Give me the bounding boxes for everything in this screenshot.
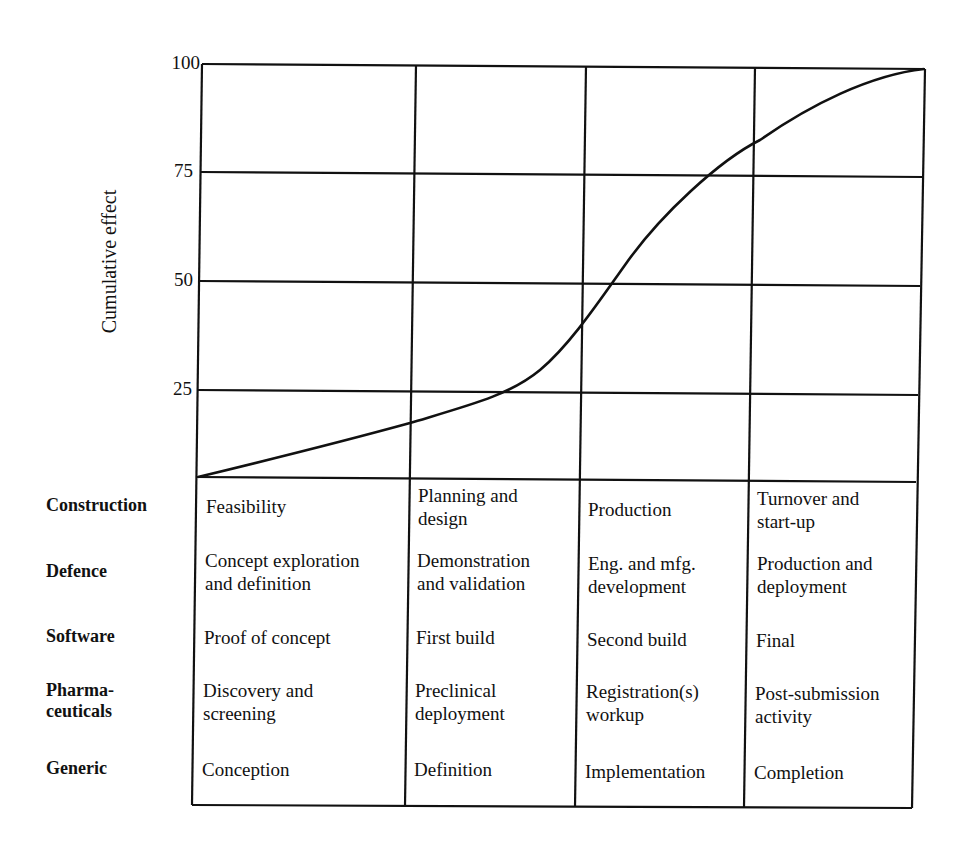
cell-software-phase4: Final	[756, 629, 795, 652]
cell-defence-phase3: Eng. and mfg.development	[588, 552, 696, 598]
cell-defence-phase1: Concept explorationand definition	[205, 549, 360, 595]
cell-pharma-phase3: Registration(s)workup	[586, 680, 699, 726]
cell-construction-phase1: Feasibility	[206, 495, 286, 518]
cell-pharma-phase2: Preclinicaldeployment	[415, 679, 505, 725]
y-tick-50: 50	[143, 269, 193, 291]
y-axis-line	[192, 64, 202, 805]
row-label-generic: Generic	[46, 758, 107, 779]
y-tick-75: 75	[143, 160, 193, 182]
cell-defence-phase4: Production anddeployment	[757, 552, 873, 598]
phase-divider-2	[575, 66, 586, 807]
row-label-defence: Defence	[46, 561, 107, 582]
cell-generic-phase2: Definition	[414, 758, 492, 781]
y-axis-label: Cumulative effect	[98, 147, 121, 377]
table-bottom-border	[192, 805, 912, 808]
cell-generic-phase4: Completion	[754, 761, 844, 784]
gridline-50	[199, 281, 920, 286]
row-label-construction: Construction	[46, 495, 147, 516]
cell-generic-phase1: Conception	[202, 758, 290, 781]
cell-construction-phase4: Turnover andstart-up	[757, 487, 859, 533]
gridline-75	[200, 172, 922, 177]
cell-construction-phase2: Planning anddesign	[418, 484, 518, 530]
cell-software-phase2: First build	[416, 626, 495, 649]
cell-software-phase3: Second build	[587, 628, 687, 651]
phase-divider-3	[744, 67, 755, 807]
cell-generic-phase3: Implementation	[585, 760, 705, 783]
cell-pharma-phase4: Post-submissionactivity	[755, 682, 880, 728]
gridline-0	[196, 477, 916, 482]
row-label-software: Software	[46, 626, 115, 647]
y-tick-100: 100	[150, 52, 200, 74]
gridline-25	[197, 390, 918, 395]
y-tick-25: 25	[142, 378, 192, 400]
cumulative-effect-curve	[198, 69, 924, 477]
cell-software-phase1: Proof of concept	[204, 626, 331, 649]
cell-construction-phase3: Production	[588, 498, 671, 521]
cell-defence-phase2: Demonstrationand validation	[417, 549, 530, 595]
cell-pharma-phase1: Discovery andscreening	[203, 679, 313, 725]
row-label-pharmaceuticals: Pharma- ceuticals	[46, 680, 114, 722]
right-border	[912, 69, 925, 808]
gridline-100	[202, 64, 925, 69]
